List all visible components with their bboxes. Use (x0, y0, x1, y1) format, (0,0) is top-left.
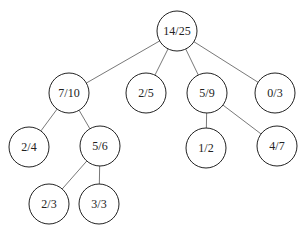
node-label: 2/3 (41, 197, 56, 211)
node-label: 4/7 (269, 139, 284, 153)
tree-node: 0/3 (255, 73, 295, 113)
tree-node: 3/3 (79, 184, 119, 224)
tree-node: 5/6 (80, 126, 120, 166)
tree-node: 2/5 (126, 73, 166, 113)
tree-node: 2/4 (9, 127, 49, 167)
tree-edge (62, 161, 87, 189)
tree-edge (41, 109, 57, 131)
node-label: 5/9 (199, 86, 214, 100)
node-label: 2/5 (138, 86, 153, 100)
tree-edges (41, 41, 261, 189)
tree-diagram: 14/257/102/55/90/32/45/61/24/72/33/3 (0, 0, 308, 232)
node-label: 2/4 (21, 140, 36, 154)
tree-edge (223, 105, 261, 134)
node-label: 14/25 (163, 24, 190, 38)
tree-edge (155, 49, 168, 75)
node-label: 1/2 (198, 141, 213, 155)
tree-edge (186, 49, 199, 75)
tree-node: 14/25 (157, 11, 197, 51)
node-label: 3/3 (91, 197, 106, 211)
tree-node: 7/10 (49, 73, 89, 113)
tree-edge (79, 110, 90, 128)
node-label: 5/6 (92, 139, 107, 153)
tree-node: 5/9 (187, 73, 227, 113)
tree-node: 2/3 (29, 184, 69, 224)
node-label: 0/3 (267, 86, 282, 100)
tree-node: 4/7 (257, 126, 297, 166)
tree-node: 1/2 (186, 128, 226, 168)
node-label: 7/10 (58, 86, 79, 100)
tree-nodes: 14/257/102/55/90/32/45/61/24/72/33/3 (9, 11, 297, 224)
